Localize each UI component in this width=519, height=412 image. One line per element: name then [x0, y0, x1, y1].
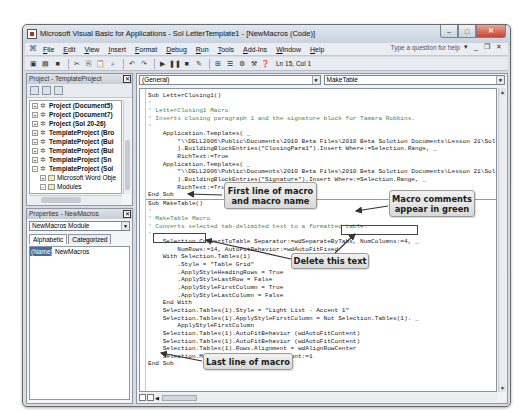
maximize-button[interactable]: □	[458, 25, 476, 38]
code-line[interactable]: Application.Templates( _	[148, 161, 494, 169]
menu-edit[interactable]: Edit	[63, 46, 75, 53]
code-line[interactable]: ).BuildingBlockEntries("ClosingPara1").I…	[148, 145, 494, 153]
code-line[interactable]: End With	[148, 299, 494, 307]
tree-item[interactable]: +✲TemplateProject (Bro	[30, 128, 121, 137]
expand-icon[interactable]: +	[32, 130, 38, 136]
find-icon[interactable]: ⌕	[108, 59, 117, 68]
code-line[interactable]: .ApplyStyleHeadingRows = True	[148, 269, 494, 277]
insert-module-icon[interactable]: ▤	[41, 59, 50, 68]
toolbox-icon[interactable]: ⚒	[249, 59, 258, 68]
tab-categorized[interactable]: Categorized	[68, 234, 111, 244]
undo-icon[interactable]: ↶	[127, 59, 136, 68]
expand-icon[interactable]: +	[32, 121, 38, 127]
code-comment-line[interactable]: ' Inserts closing paragraph 1 and the si…	[148, 115, 494, 123]
scroll-down-icon[interactable]: ▼	[499, 384, 506, 392]
code-line[interactable]: Sub LetterClosing1()	[148, 92, 494, 100]
property-row[interactable]: (Name) NewMacros	[30, 247, 129, 256]
object-browser-icon[interactable]: ⚙	[237, 59, 246, 68]
menu-view[interactable]: View	[84, 46, 99, 53]
tree-item[interactable]: +✲TemplateProject (Bui	[30, 146, 121, 155]
menu-help[interactable]: Help	[310, 46, 324, 53]
chevron-down-icon[interactable]: ▼	[496, 76, 504, 84]
tree-item[interactable]: −Modules	[30, 182, 121, 191]
chevron-down-icon[interactable]: ▼	[312, 76, 320, 84]
close-button[interactable]: ✕	[476, 25, 506, 38]
paste-icon[interactable]: 📋	[96, 59, 105, 68]
code-line[interactable]: Selection.MoveDown Unit:=wdLine, Count:=…	[148, 353, 494, 361]
view-word-icon[interactable]: ▣	[29, 59, 38, 68]
copy-icon[interactable]: ⎘	[84, 59, 93, 68]
toggle-folders-button[interactable]	[54, 86, 63, 95]
redo-icon[interactable]: ↷	[139, 59, 148, 68]
scroll-left-icon[interactable]: ◀	[155, 395, 159, 401]
help-icon[interactable]: ❓	[261, 59, 270, 68]
project-tree-hscrollbar[interactable]	[29, 195, 122, 204]
code-vscrollbar[interactable]: ▲ ▼	[498, 88, 506, 392]
tree-item[interactable]: +✲Project (Sol 20-26)	[30, 119, 121, 128]
code-line[interactable]: "\\DELL2006\Public\Documents\2010 Beta F…	[148, 168, 494, 176]
properties-window-icon[interactable]: ☰	[225, 59, 234, 68]
code-line[interactable]: End Sub	[148, 360, 494, 368]
procedure-view-button[interactable]	[139, 394, 146, 401]
break-icon[interactable]: ❚❚	[170, 59, 179, 68]
collapse-icon[interactable]: −	[40, 184, 46, 190]
reset-icon[interactable]: ■	[182, 59, 191, 68]
code-line[interactable]: Selection.Tables(1).AutoFitBehavior (wdA…	[148, 330, 494, 338]
code-line[interactable]: RichText:=True	[148, 153, 494, 161]
minimize-button[interactable]: –	[440, 25, 458, 38]
tree-item[interactable]: +✲TemplateProject (Sn	[30, 155, 121, 164]
code-comment-line[interactable]: '	[148, 123, 494, 131]
procedure-combo[interactable]: MakeTable ▼	[324, 75, 506, 85]
expand-icon[interactable]: +	[32, 112, 38, 118]
cut-icon[interactable]: ✂	[72, 59, 81, 68]
code-line[interactable]: Application.Templates( _	[148, 130, 494, 138]
expand-icon[interactable]: +	[32, 103, 38, 109]
menu-run[interactable]: Run	[196, 46, 209, 53]
code-line[interactable]: Selection.Tables(1).ApplyStyleFirstColum…	[148, 315, 494, 323]
tree-item[interactable]: +✲Project (Document5)	[30, 101, 121, 110]
code-line[interactable]: Selection.Tables(1).AutoFitBehavior (wdA…	[148, 338, 494, 346]
full-module-view-button[interactable]	[147, 394, 154, 401]
project-pane-close-button[interactable]: ✕	[123, 75, 131, 83]
help-dropdown-icon[interactable]: ▾	[464, 43, 468, 51]
hscroll-thumb[interactable]	[162, 395, 197, 401]
project-tree-vscrollbar[interactable]	[123, 100, 131, 194]
menu-window[interactable]: Window	[276, 46, 301, 53]
tree-item[interactable]: +✲TemplateProject (Bui	[30, 137, 121, 146]
code-line[interactable]: "\\DELL2006\Public\Documents\2010 Beta F…	[148, 138, 494, 146]
code-line[interactable]: ).BuildingBlockEntries("Signature").Inse…	[148, 176, 494, 184]
menu-format[interactable]: Format	[135, 46, 157, 53]
code-line[interactable]: ApplyStyleFirstColumn	[148, 322, 494, 330]
tab-alphabetic[interactable]: Alphabetic	[29, 234, 67, 244]
code-comment-line[interactable]: ' LetterClosing1 Macro	[148, 107, 494, 115]
design-mode-icon[interactable]: ✎	[194, 59, 203, 68]
code-comment-line[interactable]: ' Converts selected tab-delimited text t…	[148, 223, 494, 231]
doc-minimize-button[interactable]: _	[474, 43, 478, 51]
menu-add-ins[interactable]: Add-Ins	[243, 46, 267, 53]
view-object-button[interactable]	[42, 86, 51, 95]
code-line[interactable]: Selection.Tables(1).Rows.Alignment = wdA…	[148, 345, 494, 353]
run-icon[interactable]: ▶	[158, 59, 167, 68]
tree-item[interactable]: −✲TemplateProject (Sol	[30, 164, 121, 173]
tree-item[interactable]: ⚙NewMacros	[30, 191, 121, 194]
doc-restore-button[interactable]: ❐	[484, 43, 490, 51]
code-line[interactable]: .ApplyStyleLastColumn = False	[148, 292, 494, 300]
scroll-up-icon[interactable]: ▲	[499, 88, 506, 96]
code-hscrollbar[interactable]: ◀	[139, 393, 497, 402]
code-lines[interactable]: Sub LetterClosing1()'' LetterClosing1 Ma…	[148, 92, 494, 368]
doc-close-button[interactable]: ✕	[496, 43, 502, 51]
expand-icon[interactable]: +	[40, 175, 46, 181]
tree-item[interactable]: +✲Project (Document7)	[30, 110, 121, 119]
collapse-icon[interactable]: −	[32, 166, 38, 172]
menu-file[interactable]: File	[43, 46, 54, 53]
chevron-down-icon[interactable]: ▼	[121, 222, 129, 230]
code-line[interactable]: .ApplyStyleLastRow = False	[148, 276, 494, 284]
properties-pane-close-button[interactable]: ✕	[123, 210, 131, 218]
code-comment-line[interactable]: '	[148, 100, 494, 108]
menu-tools[interactable]: Tools	[218, 46, 234, 53]
code-margin-indicator-bar[interactable]	[140, 89, 146, 391]
property-value[interactable]: NewMacros	[52, 247, 89, 256]
menu-insert[interactable]: Insert	[108, 46, 126, 53]
tree-item[interactable]: +Microsoft Word Obje	[30, 173, 121, 182]
help-search-input[interactable]: Type a question for help	[391, 44, 460, 51]
